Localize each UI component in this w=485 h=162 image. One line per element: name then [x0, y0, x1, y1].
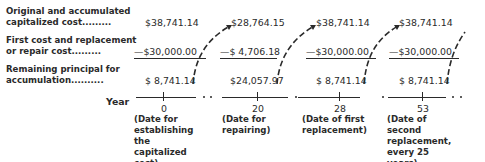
flow-arrows	[0, 0, 485, 162]
